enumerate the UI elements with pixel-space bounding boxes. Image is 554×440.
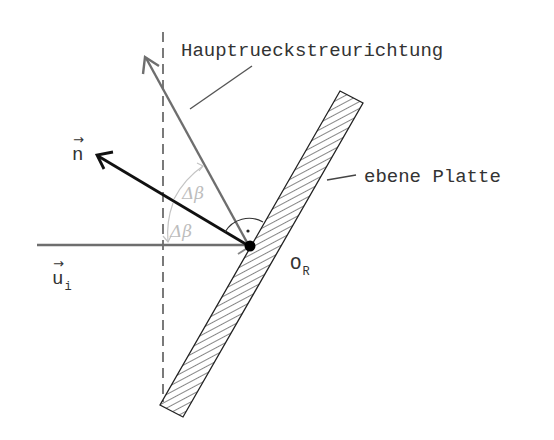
vector-arrow-icon: → <box>73 132 84 147</box>
backscatter-direction-label: Hauptrueckstreurichtung <box>181 40 443 62</box>
plate-label: ebene Platte <box>364 166 501 188</box>
right-angle-arc <box>225 218 263 232</box>
vector-arrow-icon: → <box>53 256 64 271</box>
right-angle-dot <box>246 229 249 232</box>
incident-vector-symbol: u <box>52 268 63 290</box>
backscatter-label-leader <box>190 66 252 109</box>
delta-beta-upper-label: Δβ <box>182 183 204 203</box>
origin-label: OR <box>290 253 310 275</box>
normal-vector-symbol: n <box>72 144 83 166</box>
plate-label-leader <box>327 175 356 180</box>
origin-subscript: R <box>302 265 309 279</box>
incident-vector-label: →ui <box>52 268 72 290</box>
origin-symbol: O <box>290 253 301 275</box>
backscatter-direction-line <box>146 58 249 246</box>
incident-vector-subscript: i <box>64 280 71 294</box>
reflection-diagram <box>0 0 554 440</box>
normal-vector-label: →n <box>72 144 83 166</box>
delta-beta-lower-label: Δβ <box>170 221 192 241</box>
origin-point <box>245 241 256 252</box>
